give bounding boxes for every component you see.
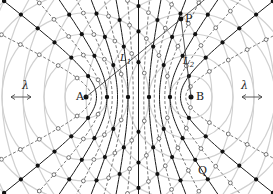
antinode-dot bbox=[155, 172, 159, 176]
node-dot bbox=[176, 44, 180, 48]
wavelength-label-right: λ bbox=[241, 80, 248, 91]
wavelength-arrow-icon bbox=[242, 95, 262, 100]
node-dot bbox=[81, 137, 85, 141]
wave-field-svg bbox=[0, 0, 273, 194]
node-dot bbox=[176, 146, 180, 150]
interference-diagram: A B P Q L1 L2 λ λ bbox=[0, 0, 273, 194]
antinode-dot bbox=[103, 155, 107, 159]
point-q-label: Q bbox=[198, 165, 207, 176]
antinode-dot bbox=[80, 158, 84, 162]
node-dot bbox=[157, 137, 161, 141]
antinode-dot bbox=[151, 145, 155, 149]
node-dot bbox=[228, 9, 232, 13]
node-dot bbox=[264, 152, 268, 156]
node-dot bbox=[142, 71, 146, 75]
antinode-dot bbox=[162, 63, 166, 67]
antinode-dot bbox=[19, 13, 23, 17]
node-dot bbox=[67, 156, 71, 160]
node-dot bbox=[113, 151, 117, 155]
node-dot bbox=[37, 53, 41, 57]
antinode-dot bbox=[178, 12, 182, 16]
antinode-dot bbox=[36, 26, 40, 30]
antinode-dot bbox=[105, 95, 109, 99]
node-dot bbox=[142, 119, 146, 123]
antinode-dot bbox=[136, 130, 140, 134]
antinode-dot bbox=[162, 127, 166, 131]
antinode-dot bbox=[193, 158, 197, 162]
antinode-dot bbox=[86, 74, 90, 78]
node-dot bbox=[113, 39, 117, 43]
node-dot bbox=[147, 179, 151, 183]
line-l2-subscript: 2 bbox=[190, 61, 194, 69]
node-dot bbox=[245, 142, 249, 146]
antinode-dot bbox=[92, 136, 96, 140]
line-l2-label: L2 bbox=[183, 56, 194, 69]
antinode-dot bbox=[204, 134, 208, 138]
antinode-dot bbox=[103, 35, 107, 39]
node-dot bbox=[52, 17, 56, 21]
antinode-dot bbox=[237, 164, 241, 168]
node-dot bbox=[0, 33, 3, 37]
antinode-dot bbox=[170, 155, 174, 159]
point-p-dot bbox=[179, 17, 184, 22]
node-dot bbox=[163, 26, 167, 30]
node-dot bbox=[92, 158, 96, 162]
antinode-dot bbox=[206, 177, 210, 181]
node-dot bbox=[207, 121, 211, 125]
node-dot bbox=[170, 188, 174, 192]
node-dot bbox=[130, 138, 134, 142]
node-dot bbox=[119, 72, 123, 76]
node-dot bbox=[126, 0, 130, 2]
node-dot bbox=[18, 43, 22, 47]
antinode-dot bbox=[126, 95, 130, 99]
wavefront-circle bbox=[2, 0, 273, 194]
wavelength-label-left: λ bbox=[22, 80, 29, 91]
node-dot bbox=[56, 127, 60, 131]
node-dot bbox=[144, 37, 148, 41]
node-dot bbox=[52, 173, 56, 177]
antinode-dot bbox=[187, 116, 191, 120]
node-dot bbox=[157, 53, 161, 57]
node-dot bbox=[67, 35, 71, 39]
wavefront-circle bbox=[0, 0, 273, 194]
antinode-dot bbox=[136, 60, 140, 64]
wavefront-circle bbox=[0, 0, 273, 194]
line-l1-label: L1 bbox=[120, 53, 131, 66]
node-dot bbox=[37, 1, 41, 5]
antinode-dot bbox=[80, 32, 84, 36]
antinode-dot bbox=[181, 136, 185, 140]
antinode-dot bbox=[19, 177, 23, 181]
antinode-dot bbox=[136, 4, 140, 8]
antinode-dot bbox=[193, 32, 197, 36]
wavefront-circle bbox=[0, 0, 273, 194]
node-dot bbox=[197, 189, 201, 193]
node-dot bbox=[165, 74, 169, 78]
node-dot bbox=[189, 106, 193, 110]
node-dot bbox=[165, 116, 169, 120]
antinode-dot bbox=[220, 40, 224, 44]
node-dot bbox=[228, 181, 232, 185]
node-dot bbox=[96, 78, 100, 82]
node-dot bbox=[147, 11, 151, 15]
antinode-dot bbox=[118, 172, 122, 176]
node-dot bbox=[102, 57, 106, 61]
antinode-dot bbox=[52, 149, 56, 153]
node-dot bbox=[128, 167, 132, 171]
node-dot bbox=[214, 26, 218, 30]
antinode-dot bbox=[111, 127, 115, 131]
antinode-dot bbox=[136, 186, 140, 190]
antinode-dot bbox=[178, 178, 182, 182]
node-dot bbox=[37, 137, 41, 141]
node-dot bbox=[128, 23, 132, 27]
node-dot bbox=[102, 133, 106, 137]
node-dot bbox=[92, 33, 96, 37]
node-dot bbox=[214, 164, 218, 168]
node-dot bbox=[0, 157, 3, 161]
antinode-dot bbox=[254, 13, 258, 17]
node-dot bbox=[75, 76, 79, 80]
node-dot bbox=[126, 192, 130, 194]
node-dot bbox=[107, 14, 111, 18]
node-dot bbox=[226, 58, 230, 62]
node-dot bbox=[56, 64, 60, 68]
node-dot bbox=[18, 148, 22, 152]
